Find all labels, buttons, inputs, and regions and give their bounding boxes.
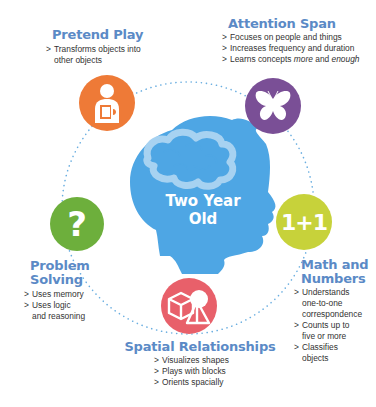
pretend-play-node — [79, 75, 135, 131]
problem-solving-title: Problem Solving — [30, 259, 90, 287]
center-label: Two Year Old — [148, 192, 258, 228]
blocks-shapes-icon — [167, 287, 211, 325]
math-and-numbers-item: Counts up tofive or more — [294, 320, 376, 342]
spatial-relationships-title: Spatial Relationships — [120, 340, 280, 354]
center-head: Two Year Old — [120, 106, 280, 276]
math-and-numbers-items: Understandsone-to-onecorrespondence Coun… — [294, 287, 376, 364]
attention-span-item: Learns concepts more and enough — [222, 54, 374, 65]
math-and-numbers-title: Math and Numbers — [301, 258, 368, 286]
spatial-relationships-node — [161, 278, 217, 334]
attention-span-item: Focuses on people and things — [222, 32, 374, 43]
problem-solving-node: ? — [50, 197, 104, 251]
question-mark-icon: ? — [67, 207, 87, 241]
math-and-numbers-item: Classifiesobjects — [294, 342, 376, 364]
pretend-play-items: Transforms objects intoother objects — [46, 44, 156, 66]
butterfly-icon — [254, 89, 292, 123]
center-label-line1: Two Year — [148, 192, 258, 210]
attention-span-node — [245, 78, 301, 134]
attention-span-item: Increases frequency and duration — [222, 43, 374, 54]
problem-solving-item: Uses logicand reasoning — [24, 300, 124, 322]
problem-solving-item: Uses memory — [24, 289, 124, 300]
attention-span-items: Focuses on people and things Increases f… — [222, 32, 374, 65]
spatial-relationships-item: Visualizes shapes — [154, 355, 264, 366]
child-with-book-icon — [89, 83, 125, 123]
spatial-relationships-items: Visualizes shapes Plays with blocks Orie… — [154, 355, 264, 388]
spatial-relationships-item: Plays with blocks — [154, 366, 264, 377]
math-and-numbers-item: Understandsone-to-onecorrespondence — [294, 287, 376, 320]
pretend-play-title: Pretend Play — [52, 28, 143, 42]
one-plus-one-icon: 1+1 — [281, 210, 327, 235]
problem-solving-items: Uses memory Uses logicand reasoning — [24, 289, 124, 322]
spatial-relationships-item: Orients spacially — [154, 377, 264, 388]
child-head-silhouette-icon — [120, 106, 280, 276]
center-label-line2: Old — [148, 210, 258, 228]
attention-span-title: Attention Span — [228, 17, 336, 31]
pretend-play-item: Transforms objects intoother objects — [46, 44, 156, 66]
math-and-numbers-node: 1+1 — [276, 194, 332, 250]
